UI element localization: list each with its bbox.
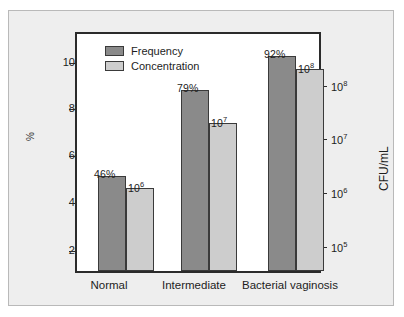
legend-label: Concentration — [131, 60, 200, 72]
right-tick-exponent: 5 — [343, 240, 347, 249]
left-axis-title: % — [25, 132, 36, 141]
right-tick-label: 106 — [331, 186, 347, 200]
bar-concentration-intermediate — [209, 123, 237, 271]
right-tick-mantissa: 10 — [331, 188, 343, 200]
right-tick-label: 105 — [331, 240, 347, 254]
x-category-label-bacterial-vaginosis: Bacterial vaginosis — [235, 279, 345, 291]
bar-concentration-bacterial-vaginosis — [296, 69, 324, 271]
right-tick-exponent: 6 — [343, 186, 347, 195]
right-tick-mantissa: 10 — [331, 81, 343, 93]
x-category-label-intermediate: Intermediate — [149, 279, 239, 291]
bar-concentration-normal — [126, 188, 154, 271]
right-tick-mantissa: 10 — [331, 242, 343, 254]
legend-label: Frequency — [131, 45, 183, 57]
concentration-mantissa: 10 — [211, 117, 223, 129]
chart-legend: Frequency Concentration — [105, 45, 200, 75]
bar-frequency-bacterial-vaginosis — [268, 56, 296, 271]
bar-label-concentration-intermediate: 107 — [211, 115, 227, 129]
bar-label-frequency-normal: 46% — [94, 168, 116, 180]
right-axis-title: CFU/mL — [377, 146, 391, 191]
bar-frequency-intermediate — [181, 90, 209, 271]
legend-item-concentration: Concentration — [105, 60, 200, 72]
right-tick-exponent: 8 — [343, 79, 347, 88]
right-tick-mantissa: 10 — [331, 134, 343, 146]
bar-label-frequency-intermediate: 79% — [177, 82, 199, 94]
legend-swatch-icon — [105, 61, 124, 71]
legend-swatch-icon — [105, 46, 124, 56]
concentration-exponent: 8 — [310, 61, 314, 70]
bar-label-concentration-normal: 106 — [128, 180, 144, 194]
right-tick-exponent: 7 — [343, 132, 347, 141]
concentration-exponent: 6 — [140, 180, 144, 189]
concentration-mantissa: 10 — [298, 63, 310, 75]
concentration-mantissa: 10 — [128, 182, 140, 194]
bar-label-concentration-bacterial-vaginosis: 108 — [298, 61, 314, 75]
bar-frequency-normal — [98, 176, 126, 271]
right-tick-label: 108 — [331, 79, 347, 93]
legend-item-frequency: Frequency — [105, 45, 200, 57]
x-category-label-normal: Normal — [69, 279, 149, 291]
right-tick-label: 107 — [331, 132, 347, 146]
concentration-exponent: 7 — [223, 115, 227, 124]
bar-label-frequency-bacterial-vaginosis: 92% — [264, 48, 286, 60]
chart-figure: % 100 80 60 40 20 108 107 106 105 CFU/mL… — [8, 10, 394, 306]
